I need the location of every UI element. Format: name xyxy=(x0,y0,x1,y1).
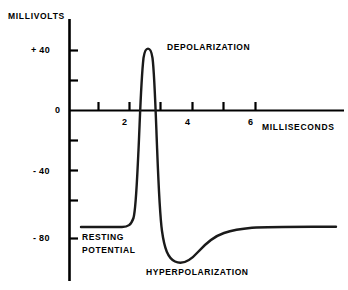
x-tick-label-4: 4 xyxy=(185,117,190,127)
y-tick-label-zero: 0 xyxy=(55,105,60,115)
resting-potential-label: RESTING POTENTIAL xyxy=(82,231,136,257)
x-tick-label-2: 2 xyxy=(122,117,127,127)
y-tick-label-minus-40: - 40 xyxy=(33,166,50,176)
hyperpolarization-label: HYPERPOLARIZATION xyxy=(146,267,249,277)
y-axis-title: MILLIVOLTS xyxy=(8,11,65,21)
y-tick-label-minus-80: - 80 xyxy=(33,233,50,243)
y-tick-label-plus-40: + 40 xyxy=(31,45,50,55)
x-tick-label-6: 6 xyxy=(248,117,253,127)
x-axis-title: MILLISECONDS xyxy=(262,122,335,132)
resting-potential-label-line2: POTENTIAL xyxy=(82,244,136,257)
x-axis-ticks xyxy=(99,102,256,110)
action-potential-figure: MILLIVOLTS MILLISECONDS + 40 0 - 40 - 80… xyxy=(0,0,348,290)
resting-potential-label-line1: RESTING xyxy=(82,231,136,244)
depolarization-label: DEPOLARIZATION xyxy=(167,42,250,52)
